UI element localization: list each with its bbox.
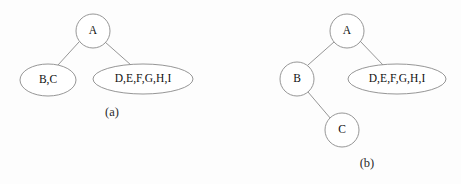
node-defghi-label: D,E,F,G,H,I xyxy=(115,72,172,85)
panel-a-nodes: AB,CD,E,F,G,H,I xyxy=(20,14,193,96)
node-a[interactable]: A xyxy=(76,14,110,48)
node-defghi-label: D,E,F,G,H,I xyxy=(369,72,426,85)
edge-a-to-bc xyxy=(58,42,79,65)
nodes-layer: AB,CD,E,F,G,H,IABCD,E,F,G,H,I xyxy=(20,14,446,147)
node-a[interactable]: A xyxy=(330,14,364,48)
edge-a-to-b xyxy=(308,42,334,65)
figure-root: AB,CD,E,F,G,H,IABCD,E,F,G,H,I (a)(b) xyxy=(0,0,461,184)
panel-a-caption: (a) xyxy=(105,105,119,119)
node-a-label: A xyxy=(343,24,352,36)
node-b-label: B xyxy=(293,72,301,84)
node-defghi[interactable]: D,E,F,G,H,I xyxy=(348,64,446,94)
edge-a-to-defghi xyxy=(105,42,131,65)
node-defghi[interactable]: D,E,F,G,H,I xyxy=(93,64,193,94)
node-c[interactable]: C xyxy=(325,113,359,147)
node-b[interactable]: B xyxy=(280,62,314,96)
panel-b-nodes: ABCD,E,F,G,H,I xyxy=(280,14,446,147)
node-bc-label: B,C xyxy=(39,73,58,86)
node-c-label: C xyxy=(338,123,346,135)
node-a-label: A xyxy=(89,24,98,36)
tree-diagram-canvas: AB,CD,E,F,G,H,IABCD,E,F,G,H,I (a)(b) xyxy=(0,0,461,184)
edge-a-to-defghi xyxy=(360,41,384,66)
node-bc[interactable]: B,C xyxy=(20,64,76,96)
panel-b-caption: (b) xyxy=(360,156,375,170)
edge-b-to-c xyxy=(308,92,331,119)
